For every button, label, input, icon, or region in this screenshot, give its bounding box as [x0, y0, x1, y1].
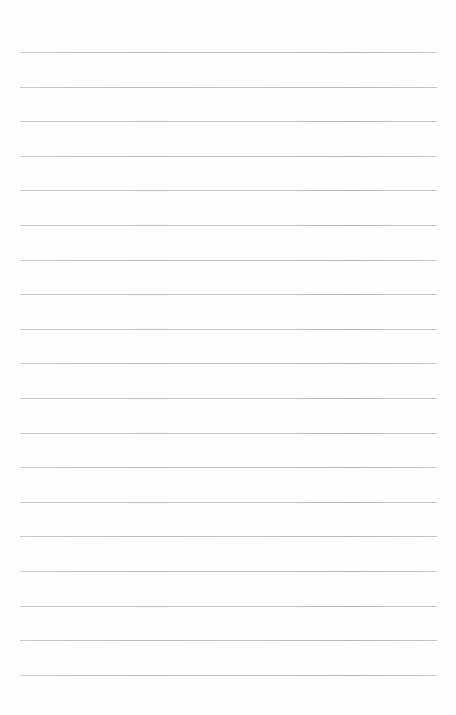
ruled-line [20, 363, 437, 364]
ruled-line [20, 329, 437, 330]
ruled-line [20, 433, 437, 434]
ruled-sheet [0, 0, 456, 715]
ruled-line [20, 260, 437, 261]
ruled-line [20, 536, 437, 537]
ruled-line [20, 156, 437, 157]
ruled-line [20, 502, 437, 503]
ruled-line [20, 640, 437, 641]
ruled-line [20, 398, 437, 399]
ruled-line [20, 121, 437, 122]
ruled-line [20, 467, 437, 468]
ruled-line [20, 225, 437, 226]
ruled-line [20, 606, 437, 607]
ruled-line [20, 52, 437, 53]
ruled-line [20, 675, 437, 676]
ruled-line [20, 294, 437, 295]
ruled-line [20, 571, 437, 572]
ruled-line [20, 87, 437, 88]
ruled-line [20, 190, 437, 191]
